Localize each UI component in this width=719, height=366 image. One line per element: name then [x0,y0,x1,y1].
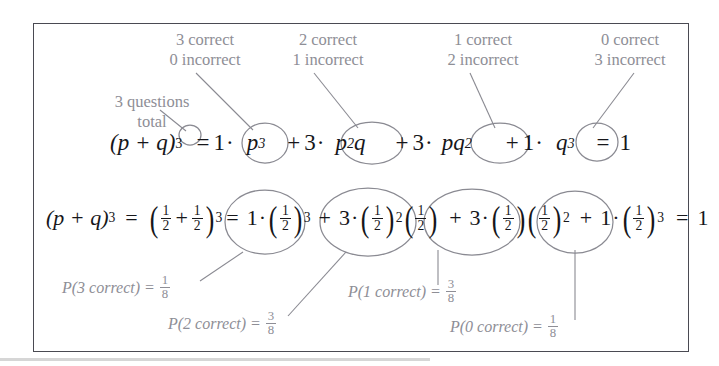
row2-plus-1: + [318,205,330,231]
row2-term2-frac-a: 1 2 [372,204,383,233]
row2-term2-frac-a-num: 1 [372,204,383,218]
row2-plus-2: + [449,205,461,231]
row2-term3-frac-b-den: 2 [539,218,550,233]
row1-plus-3: + [506,130,519,156]
row1-plus-2: + [396,130,409,156]
row2-term3-lparen-a: ( [492,209,501,230]
row1-term1-dot: · [226,130,234,156]
row2-term2: 3· ( 1 2 )2 ( 1 2 ) [339,204,439,233]
annotation-outcome-2-correct: 1 correct [418,30,548,50]
row1-term3-body: pq2 [442,130,472,156]
row2-equals-3: = [676,205,688,231]
probability-label-0-correct-den: 8 [548,326,558,340]
probability-label-3-correct-fraction: 1 8 [160,274,170,301]
row1-term3-coefficient: 3 [413,130,425,156]
row2-halfsum-frac2-den: 2 [192,218,203,233]
probability-label-2-correct: P(2 correct) = 3 8 [168,310,277,337]
row1-equals-2: = [597,130,610,156]
row2-term3: 3· ( 1 2 ) ( 1 2 )2 [470,204,570,233]
row2-term4-dot: · [612,205,619,231]
row1-term2-coefficient: 3 [304,130,316,156]
row1-term3-base: p [442,130,454,156]
probability-label-0-correct-fraction: 1 8 [548,313,558,340]
row1-term1-body: p3 [247,130,266,156]
row2-term2-frac-b-num: 1 [415,204,426,218]
annotation-outcome-1-incorrect: 1 incorrect [263,50,393,70]
row2-halfsum-frac1: 1 2 [161,204,172,233]
row2-term4-frac: 1 2 [633,204,644,233]
row2-halfsum-frac2-num: 1 [192,204,203,218]
probability-label-3-correct-num: 1 [160,274,170,287]
probability-label-0-correct-num: 1 [548,313,558,326]
row2-halfsum-lparen: ( [149,209,158,230]
row2-term4-lparen: ( [622,209,631,230]
row2-term1-dot: · [259,205,266,231]
equation-row-1: (p + q)3 = 1· p3 + 3· p2q + 3· pq2 + 1· … [110,130,631,156]
row2-result: 1 [697,205,708,231]
row2-term1-frac: 1 2 [280,204,291,233]
probability-label-0-correct: P(0 correct) = 1 8 [450,313,559,340]
page-bottom-strip [0,358,430,361]
row2-term2-dot: · [351,205,358,231]
binomial-expansion-figure: 3 questions total 3 correct 0 incorrect … [0,0,719,366]
row2-halfsum-rparen: ) [205,209,214,230]
row2-halfsum: ( 1 2 + 1 2 )3 [148,204,223,233]
row2-term2-rparen-b: ) [429,209,438,230]
row2-term1-frac-den: 2 [280,218,291,233]
probability-label-2-correct-fraction: 3 8 [266,310,276,337]
row1-term3-base2: q [453,130,465,156]
annotation-outcome-0: 3 correct 0 incorrect [140,30,270,70]
row2-term4-rparen: ) [647,209,656,230]
row2-term3-rparen-a: ) [516,209,525,230]
row2-equals-1: = [125,205,137,231]
row2-term4-frac-num: 1 [633,204,644,218]
row1-term2-base: p [335,130,347,156]
row2-term3-frac-a: 1 2 [503,204,514,233]
row2-term3-frac-b: 1 2 [539,204,550,233]
probability-label-3-correct: P(3 correct) = 1 8 [62,274,171,301]
row2-term3-frac-a-num: 1 [503,204,514,218]
row1-term1-base: p [247,130,259,156]
row1-term3-dot: · [425,130,433,156]
row2-term2-coefficient: 3 [339,205,350,231]
annotation-outcome-0-correct: 3 correct [140,30,270,50]
annotation-outcome-3-correct: 0 correct [570,30,690,50]
probability-label-2-correct-num: 3 [266,310,276,323]
row2-term2-rparen-a: ) [386,209,395,230]
equation-row-2: (p + q)3 = ( 1 2 + 1 2 )3 = 1· ( 1 2 ) [46,204,708,233]
row2-term1-frac-num: 1 [280,204,291,218]
annotation-outcome-2: 1 correct 2 incorrect [418,30,548,70]
row1-term4-base: q [556,130,568,156]
row2-term2-frac-a-den: 2 [372,218,383,233]
row2-term3-coefficient: 3 [470,205,481,231]
row2-halfsum-frac2: 1 2 [192,204,203,233]
probability-label-2-correct-text: P(2 correct) = [168,315,261,333]
probability-label-1-correct-num: 3 [446,278,456,291]
row2-plus-3: + [580,205,592,231]
row1-result: 1 [620,130,632,156]
row2-term3-rparen-b: ) [553,209,562,230]
row1-term2-base2: q [354,130,366,156]
row2-term3-frac-a-den: 2 [503,218,514,233]
row1-equals-1: = [196,130,209,156]
row2-term2-lparen-b: ( [404,209,413,230]
row2-term2-frac-b-den: 2 [415,218,426,233]
row2-equals-2: = [226,205,238,231]
row2-term4: 1· ( 1 2 )3 [600,204,664,233]
annotation-questions-total-line1: 3 questions [88,92,216,112]
row2-term3-lparen-b: ( [528,209,537,230]
row2-term3-frac-b-num: 1 [539,204,550,218]
annotation-questions-total-line2: total [88,112,216,132]
annotation-outcome-0-incorrect: 0 incorrect [140,50,270,70]
annotation-outcome-3: 0 correct 3 incorrect [570,30,690,70]
annotation-outcome-1: 2 correct 1 incorrect [263,30,393,70]
annotation-outcome-1-correct: 2 correct [263,30,393,50]
row2-term1-rparen: ) [293,209,302,230]
row2-halfsum-plus: + [175,205,187,231]
annotation-outcome-3-incorrect: 3 incorrect [570,50,690,70]
row1-term4-coefficient: 1 [523,130,535,156]
probability-label-1-correct-text: P(1 correct) = [348,283,441,301]
row2-term1-lparen: ( [269,209,278,230]
row1-term4-body: q3 [556,130,575,156]
row2-term2-lparen-a: ( [361,209,370,230]
